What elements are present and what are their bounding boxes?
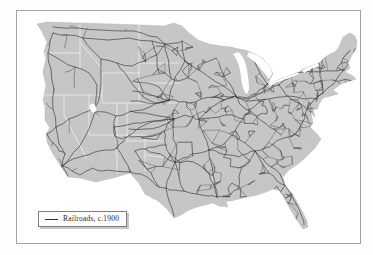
legend-label: Railroads, c.1900 [63,215,119,223]
legend: Railroads, c.1900 [38,211,127,227]
map-frame: Railroads, c.1900 [16,10,361,244]
us-railroads-map [17,11,360,243]
railroad-line-symbol [45,219,58,220]
